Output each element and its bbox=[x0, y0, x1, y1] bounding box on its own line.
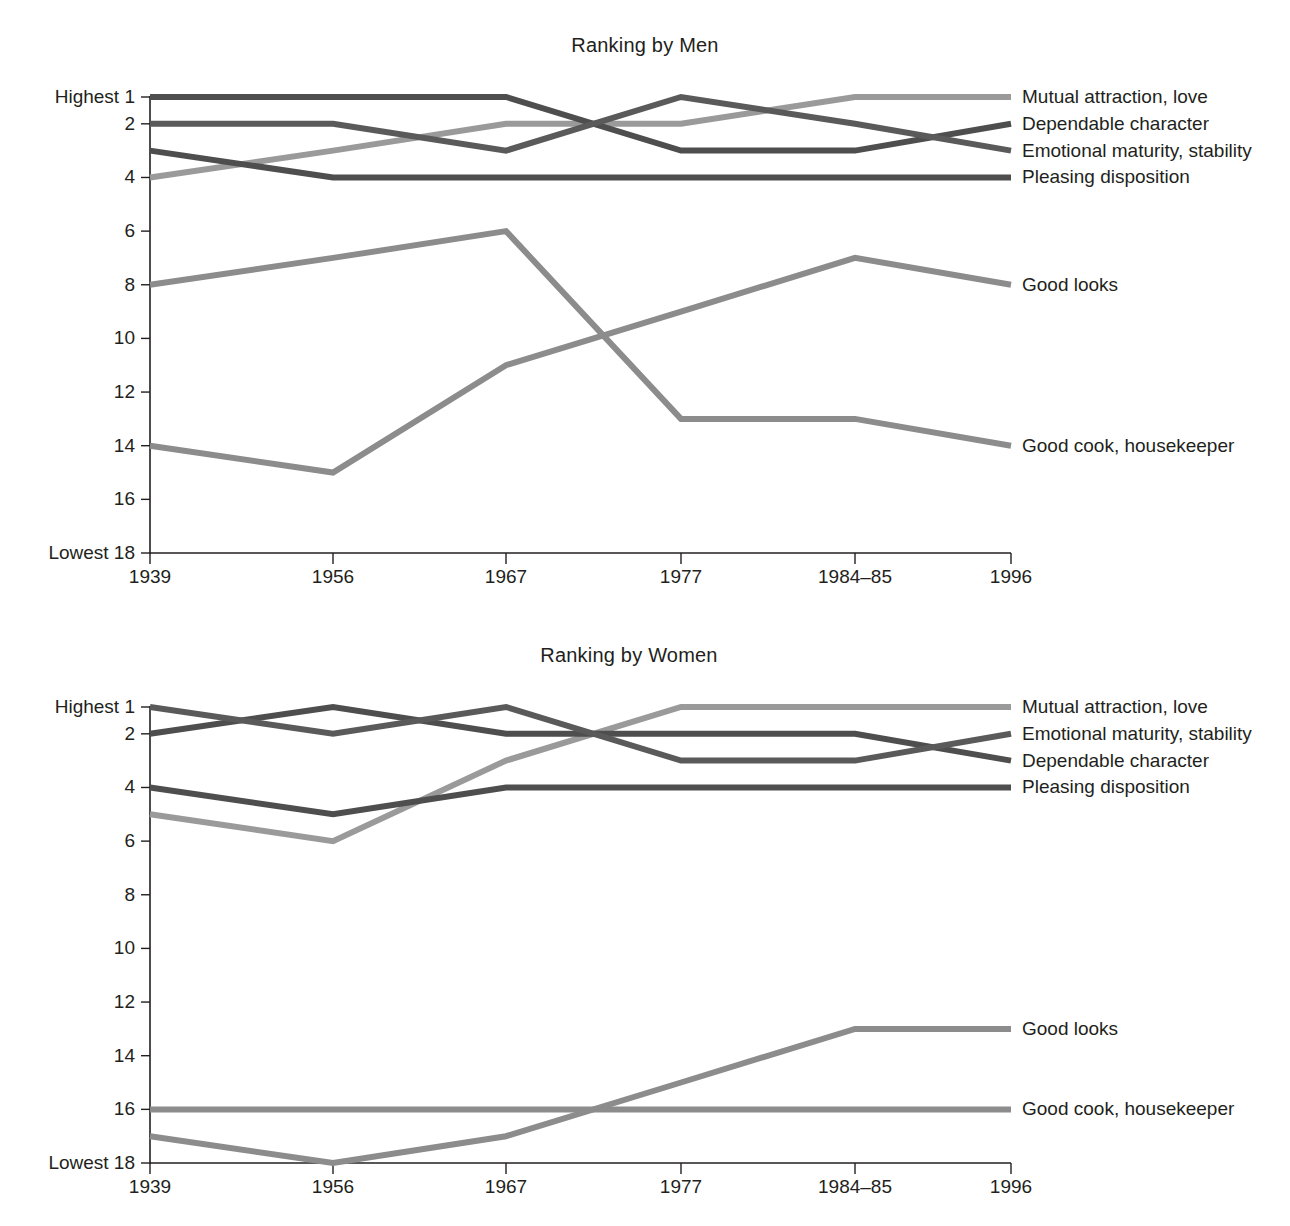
series-line bbox=[150, 788, 1011, 815]
y-axis-tick-label: 4 bbox=[124, 776, 135, 797]
series-label: Dependable character bbox=[1022, 750, 1210, 771]
y-axis-tick-label: Highest 1 bbox=[55, 696, 135, 717]
series-label: Good cook, housekeeper bbox=[1022, 1098, 1235, 1119]
x-axis-tick-label: 1956 bbox=[312, 566, 354, 587]
y-axis-tick-label: 2 bbox=[124, 113, 135, 134]
series-label: Pleasing disposition bbox=[1022, 166, 1190, 187]
x-axis-tick-label: 1967 bbox=[485, 566, 527, 587]
series-label: Dependable character bbox=[1022, 113, 1210, 134]
x-axis-tick-label: 1984–85 bbox=[818, 1176, 892, 1197]
series-label: Emotional maturity, stability bbox=[1022, 140, 1252, 161]
y-axis-tick-label: 6 bbox=[124, 220, 135, 241]
chart-panel-men: Ranking by Men Highest 1246810121416Lowe… bbox=[0, 0, 1290, 610]
series-line bbox=[150, 97, 1011, 178]
y-axis-tick-label: Lowest 18 bbox=[48, 542, 135, 563]
line-chart-women: Highest 1246810121416Lowest 181939195619… bbox=[0, 610, 1290, 1226]
series-label: Good looks bbox=[1022, 274, 1118, 295]
y-axis-tick-label: 12 bbox=[114, 381, 135, 402]
series-label: Pleasing disposition bbox=[1022, 776, 1190, 797]
series-label: Good looks bbox=[1022, 1018, 1118, 1039]
x-axis-tick-label: 1939 bbox=[129, 1176, 171, 1197]
x-axis-tick-label: 1996 bbox=[990, 566, 1032, 587]
x-axis-tick-label: 1996 bbox=[990, 1176, 1032, 1197]
y-axis-tick-label: 8 bbox=[124, 274, 135, 295]
line-chart-men: Highest 1246810121416Lowest 181939195619… bbox=[0, 0, 1290, 610]
series-line bbox=[150, 258, 1011, 473]
y-axis-tick-label: 2 bbox=[124, 723, 135, 744]
x-axis-tick-label: 1939 bbox=[129, 566, 171, 587]
x-axis-tick-label: 1977 bbox=[660, 1176, 702, 1197]
y-axis-tick-label: Lowest 18 bbox=[48, 1152, 135, 1173]
y-axis-tick-label: 12 bbox=[114, 991, 135, 1012]
x-axis-tick-label: 1977 bbox=[660, 566, 702, 587]
series-label: Good cook, housekeeper bbox=[1022, 435, 1235, 456]
y-axis-tick-label: 14 bbox=[114, 435, 136, 456]
series-label: Mutual attraction, love bbox=[1022, 696, 1208, 717]
y-axis-tick-label: 10 bbox=[114, 937, 135, 958]
series-label: Mutual attraction, love bbox=[1022, 86, 1208, 107]
y-axis-tick-label: 6 bbox=[124, 830, 135, 851]
y-axis-tick-label: 10 bbox=[114, 327, 135, 348]
chart-panel-women: Ranking by Women Highest 1246810121416Lo… bbox=[0, 610, 1290, 1226]
series-label: Emotional maturity, stability bbox=[1022, 723, 1252, 744]
series-line bbox=[150, 707, 1011, 761]
y-axis-tick-label: 16 bbox=[114, 1098, 135, 1119]
x-axis-tick-label: 1984–85 bbox=[818, 566, 892, 587]
y-axis-tick-label: 16 bbox=[114, 488, 135, 509]
y-axis-tick-label: 8 bbox=[124, 884, 135, 905]
y-axis-tick-label: 14 bbox=[114, 1045, 136, 1066]
series-line bbox=[150, 151, 1011, 178]
x-axis-tick-label: 1967 bbox=[485, 1176, 527, 1197]
y-axis-tick-label: Highest 1 bbox=[55, 86, 135, 107]
x-axis-tick-label: 1956 bbox=[312, 1176, 354, 1197]
series-line bbox=[150, 1029, 1011, 1163]
y-axis-tick-label: 4 bbox=[124, 166, 135, 187]
figure-root: Ranking by Men Highest 1246810121416Lowe… bbox=[0, 0, 1290, 1226]
